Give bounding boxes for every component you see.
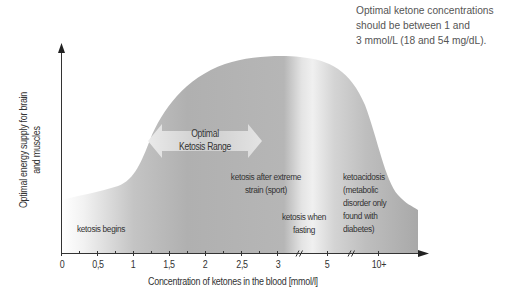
tick-label-1-5: 1,5 <box>163 258 175 270</box>
label-acid-line-4: found with <box>343 209 386 222</box>
label-acid-line-1: ketoacidosis <box>343 170 386 183</box>
tick-label-0-5: 0,5 <box>92 258 104 270</box>
ketone-chart <box>0 0 506 297</box>
label-strain-line-1: ketosis after extreme <box>219 170 314 183</box>
tick-label-3: 3 <box>276 258 281 270</box>
label-optimal-range: Optimal Ketosis Range <box>175 127 235 153</box>
y-axis-arrow-icon <box>58 43 65 53</box>
label-ketosis-begins: ketosis begins <box>77 222 125 235</box>
tick-label-0: 0 <box>60 258 65 270</box>
label-acid-line-5: diabetes) <box>343 222 386 235</box>
label-strain-line-2: strain (sport) <box>219 183 314 196</box>
label-optimal-line-1: Optimal <box>175 127 235 140</box>
tick-label-5: 5 <box>325 258 330 270</box>
tick-label-1: 1 <box>131 258 136 270</box>
label-fasting-line-1: ketosis when <box>273 210 335 223</box>
label-fasting: ketosis when fasting <box>273 210 335 236</box>
label-fasting-line-2: fasting <box>273 223 335 236</box>
label-extreme-strain: ketosis after extreme strain (sport) <box>219 170 314 196</box>
y-axis-label: Optimal energy supply for brain and musc… <box>17 82 43 218</box>
tick-label-2-5: 2,5 <box>236 258 248 270</box>
x-axis-label: Concentration of ketones in the blood [m… <box>148 275 318 287</box>
tick-label-10-plus: 10+ <box>372 258 386 270</box>
y-axis-label-line-2: and muscles <box>30 82 43 218</box>
label-optimal-line-2: Ketosis Range <box>175 140 235 153</box>
x-axis-arrow-icon <box>418 250 429 257</box>
label-ketoacidosis: ketoacidosis (metabolic disorder only fo… <box>343 170 386 235</box>
label-acid-line-3: disorder only <box>343 196 386 209</box>
y-axis-label-line-1: Optimal energy supply for brain <box>17 82 30 218</box>
tick-label-2: 2 <box>203 258 208 270</box>
label-acid-line-2: (metabolic <box>343 183 386 196</box>
